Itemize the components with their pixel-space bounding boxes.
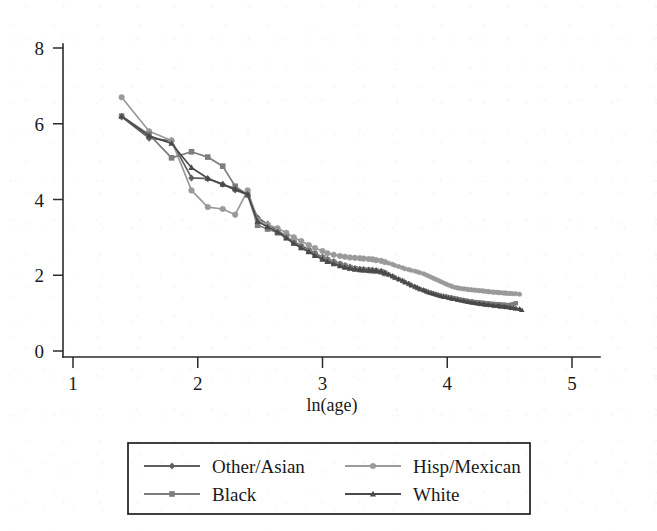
data-point-marker	[169, 491, 175, 497]
data-point-marker	[325, 250, 331, 256]
legend-item-label: Hisp/Mexican	[413, 456, 521, 477]
chart-legend: Other/AsianHisp/MexicanBlackWhite	[128, 443, 530, 514]
data-point-marker	[232, 212, 238, 218]
data-point-marker	[373, 257, 379, 263]
chart-figure: 02468 12345 ln(age) Other/AsianHisp/Mexi…	[0, 0, 657, 531]
data-point-marker	[517, 292, 521, 296]
y-tick-label: 0	[35, 341, 45, 362]
legend-border	[128, 443, 530, 514]
x-tick-label: 3	[318, 373, 328, 394]
data-point-marker	[169, 155, 175, 161]
legend-item-label: Other/Asian	[212, 456, 305, 477]
data-point-marker	[312, 245, 318, 251]
legend-item-label: Black	[212, 484, 257, 505]
x-tick-label: 5	[567, 373, 577, 394]
data-point-marker	[119, 94, 125, 100]
x-tick-label: 1	[68, 373, 78, 394]
y-tick-label: 8	[35, 38, 45, 59]
data-point-marker	[361, 256, 367, 262]
data-point-marker	[189, 188, 195, 194]
data-point-marker	[306, 242, 312, 248]
y-tick-label: 2	[35, 265, 45, 286]
x-tick-label: 2	[193, 373, 203, 394]
data-point-marker	[291, 235, 297, 241]
data-point-marker	[337, 253, 343, 259]
data-point-marker	[220, 163, 226, 169]
data-point-marker	[189, 149, 195, 155]
legend-item-label: White	[413, 484, 459, 505]
data-point-marker	[205, 154, 211, 160]
data-point-marker	[205, 204, 211, 210]
y-tick-label: 6	[35, 114, 45, 135]
data-point-marker	[298, 238, 304, 244]
data-point-marker	[352, 255, 358, 261]
x-tick-label: 4	[443, 373, 453, 394]
data-point-marker	[347, 255, 353, 261]
x-axis-title: ln(age)	[307, 395, 358, 416]
data-point-marker	[514, 301, 518, 305]
data-point-marker	[331, 252, 337, 258]
data-point-marker	[342, 254, 348, 260]
data-point-marker	[370, 463, 376, 469]
data-point-marker	[220, 206, 226, 212]
y-tick-label: 4	[35, 190, 45, 211]
